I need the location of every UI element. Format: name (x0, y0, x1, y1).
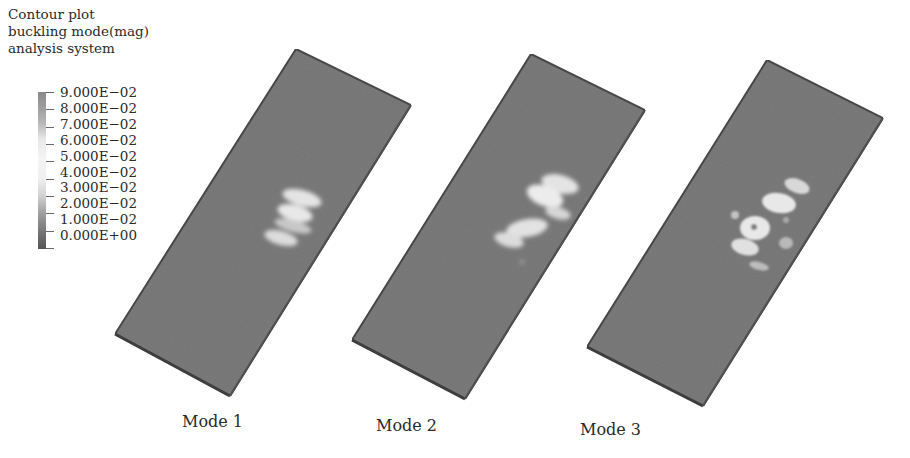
mode-2-label: Mode 2 (376, 416, 437, 435)
buckling-mode-scene (0, 0, 910, 458)
mode-1-label: Mode 1 (182, 412, 243, 431)
mode-3-label: Mode 3 (580, 420, 641, 439)
